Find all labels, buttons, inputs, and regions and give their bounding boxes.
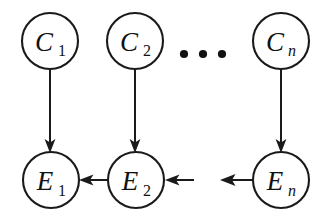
node-e1-label: E xyxy=(36,166,54,196)
node-e2[interactable]: E 2 xyxy=(108,152,164,208)
node-cn[interactable]: C n xyxy=(253,13,309,69)
node-e1-subscript: 1 xyxy=(58,182,66,199)
node-cn-subscript: n xyxy=(288,42,296,59)
edge-e2-e1 xyxy=(79,174,108,185)
edge-gap-e2 xyxy=(165,174,194,185)
node-en[interactable]: E n xyxy=(253,152,309,208)
node-c2[interactable]: C 2 xyxy=(107,13,163,69)
edge-en-gap xyxy=(220,174,252,186)
node-e1[interactable]: E 1 xyxy=(23,152,79,208)
node-en-subscript: n xyxy=(288,182,296,199)
edge-cn-en xyxy=(276,69,287,153)
edge-c1-e1 xyxy=(45,69,56,153)
causal-graph-canvas: C 1 C 2 C n E 1 E 2 E n xyxy=(0,0,334,221)
node-en-label: E xyxy=(266,166,284,196)
node-c1-subscript: 1 xyxy=(58,42,66,59)
node-c2-subscript: 2 xyxy=(143,42,151,59)
node-e2-subscript: 2 xyxy=(143,182,151,199)
edge-c2-e2 xyxy=(130,69,141,153)
node-cn-label: C xyxy=(266,27,285,57)
node-e2-label: E xyxy=(121,166,139,196)
node-c1-label: C xyxy=(35,27,54,57)
node-c1[interactable]: C 1 xyxy=(22,13,78,69)
node-c2-label: C xyxy=(120,27,139,57)
ellipsis-dots xyxy=(180,50,226,58)
causal-diagram: C 1 C 2 C n E 1 E 2 E n xyxy=(0,0,334,221)
